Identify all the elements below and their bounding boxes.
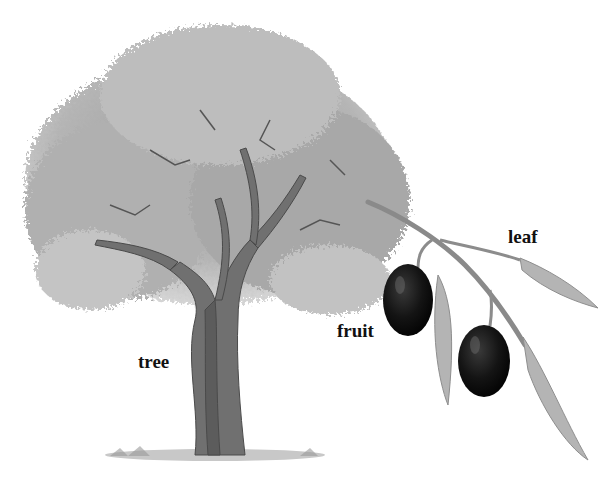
label-leaf: leaf: [508, 227, 538, 246]
tree-canopy: [25, 25, 410, 315]
olive-fruit-2: [458, 325, 510, 397]
label-fruit: fruit: [337, 321, 374, 340]
olive-fruit-1: [383, 264, 433, 336]
label-tree: tree: [138, 352, 169, 371]
